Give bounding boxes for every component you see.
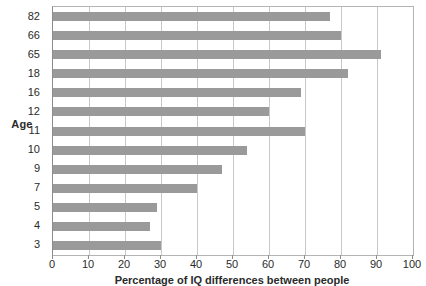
x-tick-label: 90 — [370, 258, 382, 270]
x-tick-label: 20 — [118, 258, 130, 270]
y-tick-label: 10 — [0, 140, 46, 159]
x-tick-label: 30 — [154, 258, 166, 270]
bar-row — [53, 7, 413, 26]
y-tick-label: 18 — [0, 63, 46, 82]
bar-series — [53, 7, 413, 255]
x-tick-label: 70 — [298, 258, 310, 270]
x-tick-mark — [304, 255, 305, 259]
x-axis-title: Percentage of IQ differences between peo… — [52, 274, 412, 286]
plot-area — [52, 6, 414, 256]
y-tick-label: 82 — [0, 6, 46, 25]
x-tick-mark — [88, 255, 89, 259]
bar — [53, 69, 348, 78]
x-tick-label: 80 — [334, 258, 346, 270]
bar-row — [53, 45, 413, 64]
bar-row — [53, 141, 413, 160]
x-axis-tick-labels: 0102030405060708090100 — [52, 258, 412, 272]
x-tick-mark — [124, 255, 125, 259]
bar-row — [53, 217, 413, 236]
bar — [53, 184, 197, 193]
y-axis-tick-labels: 826665181612111097543 — [0, 6, 46, 254]
x-tick-label: 60 — [262, 258, 274, 270]
x-tick-label: 100 — [403, 258, 421, 270]
bar — [53, 31, 341, 40]
y-tick-label: 9 — [0, 159, 46, 178]
x-tick-label: 50 — [226, 258, 238, 270]
x-tick-mark — [232, 255, 233, 259]
bar-chart: Age 826665181612111097543 01020304050607… — [0, 0, 426, 286]
y-tick-label: 66 — [0, 25, 46, 44]
y-tick-label: 65 — [0, 44, 46, 63]
bar-row — [53, 102, 413, 121]
y-tick-label: 16 — [0, 82, 46, 101]
x-tick-mark — [160, 255, 161, 259]
x-tick-label: 0 — [49, 258, 55, 270]
bar-row — [53, 83, 413, 102]
x-tick-mark — [340, 255, 341, 259]
y-tick-label: 12 — [0, 101, 46, 120]
y-tick-label: 7 — [0, 178, 46, 197]
y-tick-label: 5 — [0, 197, 46, 216]
bar-row — [53, 236, 413, 255]
bar-row — [53, 198, 413, 217]
bar-row — [53, 160, 413, 179]
x-tick-mark — [268, 255, 269, 259]
x-tick-mark — [52, 255, 53, 259]
x-tick-mark — [196, 255, 197, 259]
bar — [53, 222, 150, 231]
x-tick-label: 40 — [190, 258, 202, 270]
bar-row — [53, 121, 413, 140]
bar — [53, 88, 301, 97]
y-tick-label: 3 — [0, 235, 46, 254]
bar-row — [53, 64, 413, 83]
x-tick-mark — [412, 255, 413, 259]
x-tick-mark — [376, 255, 377, 259]
bar — [53, 50, 381, 59]
y-tick-label: 4 — [0, 216, 46, 235]
x-tick-label: 10 — [82, 258, 94, 270]
bar — [53, 12, 330, 21]
bar — [53, 241, 161, 250]
bar — [53, 146, 247, 155]
bar — [53, 127, 305, 136]
bar — [53, 107, 269, 116]
bar — [53, 165, 222, 174]
y-tick-label: 11 — [0, 120, 46, 139]
bar-row — [53, 179, 413, 198]
bar — [53, 203, 157, 212]
bar-row — [53, 26, 413, 45]
